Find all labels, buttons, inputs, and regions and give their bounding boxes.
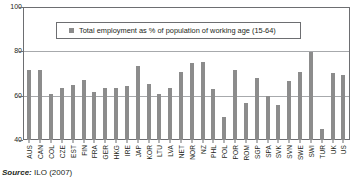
bar-us[interactable] xyxy=(341,75,345,140)
x-tick-mark xyxy=(72,140,73,143)
x-tick-mark xyxy=(137,140,138,143)
x-label-slot: SPA xyxy=(262,141,273,169)
x-label-slot: NZ xyxy=(197,141,208,169)
x-label-slot: COL xyxy=(46,141,57,169)
x-label-slot: SGP xyxy=(251,141,262,169)
x-label-slot: FIN xyxy=(78,141,89,169)
bar-lva[interactable] xyxy=(168,88,172,140)
x-label-us: US xyxy=(340,145,347,154)
bar-nor[interactable] xyxy=(190,63,194,140)
x-label-fin: FIN xyxy=(80,145,87,156)
x-label-sgp: SGP xyxy=(253,145,260,159)
x-label-slot: HKG xyxy=(111,141,122,169)
x-tick-mark xyxy=(332,140,333,143)
bar-ire[interactable] xyxy=(125,86,129,140)
x-label-kor: KOR xyxy=(145,145,152,159)
x-tick-mark xyxy=(245,140,246,143)
x-tick-mark xyxy=(40,140,41,143)
x-label-slot: EST xyxy=(67,141,78,169)
source-label: Source: xyxy=(2,168,32,177)
bar-fra[interactable] xyxy=(92,92,96,140)
x-tick-mark xyxy=(61,140,62,143)
bar-net[interactable] xyxy=(179,72,183,140)
x-label-slot: KOR xyxy=(143,141,154,169)
legend-swatch-icon xyxy=(69,28,74,33)
x-label-nor: NOR xyxy=(188,145,195,160)
x-tick-mark xyxy=(105,140,106,143)
bar-phl[interactable] xyxy=(211,89,215,140)
x-label-slot: GER xyxy=(100,141,111,169)
bar-slot xyxy=(24,8,35,140)
x-tick-mark xyxy=(29,140,30,143)
x-tick-mark xyxy=(213,140,214,143)
x-label-slot: POL xyxy=(219,141,230,169)
x-tick-mark xyxy=(170,140,171,143)
x-tick-mark xyxy=(310,140,311,143)
x-label-spa: SPA xyxy=(264,145,271,158)
bar-nz[interactable] xyxy=(201,62,205,140)
bar-can[interactable] xyxy=(38,70,42,140)
y-tick-mark-40 xyxy=(19,140,23,141)
bar-col[interactable] xyxy=(49,94,53,140)
x-label-slot: LVA xyxy=(165,141,176,169)
x-tick-mark xyxy=(51,140,52,143)
x-label-slot: PHL xyxy=(208,141,219,169)
x-label-slot: US xyxy=(338,141,349,169)
bar-por[interactable] xyxy=(233,70,237,140)
x-label-svn: SVN xyxy=(286,145,293,159)
bar-slot xyxy=(338,8,349,140)
bar-jap[interactable] xyxy=(136,66,140,140)
x-tick-mark xyxy=(224,140,225,143)
bar-slot xyxy=(316,8,327,140)
bar-slot xyxy=(327,8,338,140)
bar-uk[interactable] xyxy=(331,73,335,140)
bar-hkg[interactable] xyxy=(114,88,118,140)
x-tick-mark xyxy=(256,140,257,143)
x-label-slot: JAP xyxy=(132,141,143,169)
x-label-slot: AUS xyxy=(24,141,35,169)
bar-ger[interactable] xyxy=(103,88,107,140)
bar-pol[interactable] xyxy=(222,117,226,140)
x-label-pol: POL xyxy=(221,145,228,158)
bar-ltu[interactable] xyxy=(157,94,161,140)
x-tick-mark xyxy=(235,140,236,143)
x-tick-mark xyxy=(191,140,192,143)
x-tick-mark xyxy=(94,140,95,143)
x-label-est: EST xyxy=(69,145,76,158)
x-label-hkg: HKG xyxy=(113,145,120,159)
bar-rom[interactable] xyxy=(244,103,248,140)
employment-bar-chart-figure: 100 80 60 40 AUSCANCOLCZEESTFINFRAGERHKG… xyxy=(0,0,358,184)
bar-svn[interactable] xyxy=(287,81,291,140)
bar-sgp[interactable] xyxy=(255,78,259,140)
x-label-svk: SVK xyxy=(275,145,282,158)
x-tick-mark xyxy=(300,140,301,143)
bar-spa[interactable] xyxy=(266,96,270,140)
bar-cze[interactable] xyxy=(60,88,64,140)
x-tick-mark xyxy=(116,140,117,143)
x-label-ltu: LTU xyxy=(156,145,163,157)
bar-slot xyxy=(35,8,46,140)
x-label-slot: LTU xyxy=(154,141,165,169)
x-tick-mark xyxy=(289,140,290,143)
x-label-aus: AUS xyxy=(26,145,33,159)
bar-svk[interactable] xyxy=(276,105,280,140)
bar-kor[interactable] xyxy=(147,84,151,140)
x-label-slot: IRE xyxy=(121,141,132,169)
x-label-swe: SWE xyxy=(297,145,304,160)
x-tick-mark xyxy=(159,140,160,143)
x-tick-mark xyxy=(267,140,268,143)
x-label-nz: NZ xyxy=(199,145,206,154)
x-tick-mark xyxy=(202,140,203,143)
x-tick-mark xyxy=(321,140,322,143)
bar-swi[interactable] xyxy=(309,52,313,140)
x-label-slot: SWI xyxy=(306,141,317,169)
bar-swe[interactable] xyxy=(298,72,302,140)
bar-aus[interactable] xyxy=(27,70,31,140)
bar-est[interactable] xyxy=(71,85,75,140)
bar-tur[interactable] xyxy=(320,129,324,140)
bar-fin[interactable] xyxy=(82,80,86,141)
x-label-rom: ROM xyxy=(242,145,249,160)
bar-slot xyxy=(46,8,57,140)
x-label-uk: UK xyxy=(329,145,336,154)
source-note: Source: ILO (2007) xyxy=(2,168,72,178)
